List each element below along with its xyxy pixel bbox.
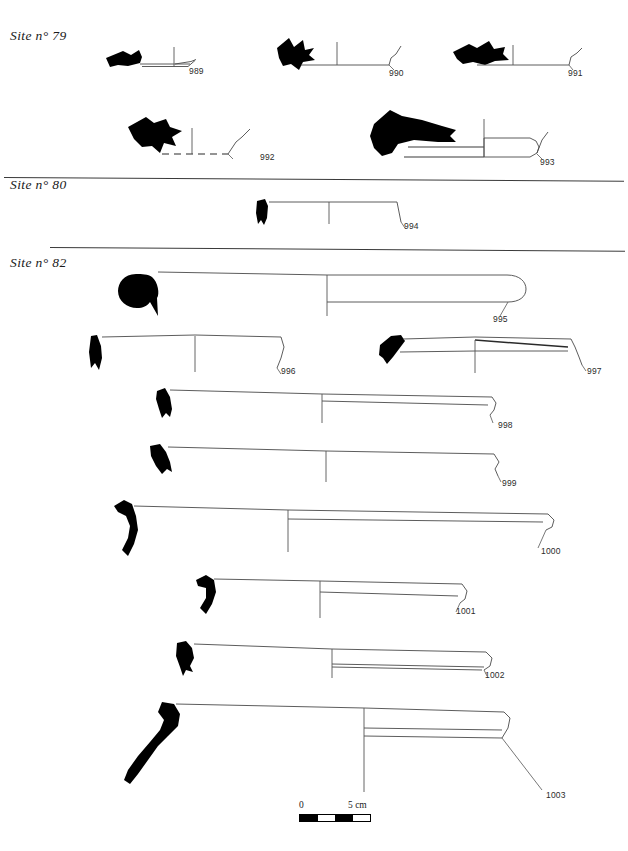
scale-segment-3 <box>335 815 353 821</box>
figure-number-992: 992 <box>260 152 275 162</box>
scale-segment-2 <box>318 815 336 821</box>
pottery-plate: Site n° 79 989 990 991 <box>0 0 628 851</box>
scale-label-max: 5 cm <box>348 800 367 810</box>
figure-drawing-994 <box>253 196 413 236</box>
scale-segment-1 <box>300 815 318 821</box>
scale-label-zero: 0 <box>299 800 304 810</box>
figure-number-1001: 1001 <box>456 606 476 616</box>
figure-drawing-996 <box>85 330 300 378</box>
figure-drawing-1003 <box>104 698 564 800</box>
scale-bar: 0 5 cm <box>299 800 373 822</box>
figure-drawing-993 <box>352 108 552 166</box>
figure-number-994: 994 <box>404 221 419 231</box>
figure-number-995: 995 <box>493 314 508 324</box>
figure-drawing-998 <box>152 385 512 433</box>
figure-number-991: 991 <box>568 68 583 78</box>
site-label-79: Site n° 79 <box>10 28 67 44</box>
figure-drawing-1000 <box>108 494 548 562</box>
site-label-80: Site n° 80 <box>10 177 67 193</box>
scale-bar-graphic <box>299 814 371 822</box>
figure-number-993: 993 <box>540 157 555 167</box>
figure-number-999: 999 <box>502 478 517 488</box>
figure-number-989: 989 <box>189 66 204 76</box>
figure-number-997: 997 <box>587 366 602 376</box>
figure-number-998: 998 <box>498 420 513 430</box>
scale-segment-4 <box>353 815 371 821</box>
figure-drawing-992 <box>120 113 270 161</box>
figure-number-1003: 1003 <box>546 790 566 800</box>
figure-drawing-995 <box>112 264 537 324</box>
figure-drawing-991 <box>447 34 587 82</box>
section-divider-2 <box>50 247 625 252</box>
figure-drawing-999 <box>146 442 511 490</box>
site-label-82: Site n° 82 <box>10 255 67 271</box>
figure-number-996: 996 <box>281 366 296 376</box>
scale-labels: 0 5 cm <box>299 800 373 812</box>
figure-number-990: 990 <box>389 68 404 78</box>
figure-number-1000: 1000 <box>541 546 561 556</box>
figure-drawing-997 <box>375 331 590 379</box>
section-divider-1 <box>4 177 624 182</box>
figure-drawing-1002 <box>168 636 498 684</box>
figure-number-1002: 1002 <box>485 670 505 680</box>
figure-drawing-1001 <box>190 572 480 624</box>
